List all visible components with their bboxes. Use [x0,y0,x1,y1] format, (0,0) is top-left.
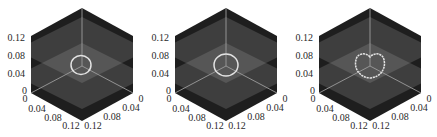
x-tick: 0.08 [332,112,350,123]
plot-panel-3: 0.12 0.08 0.04 0 0 0.04 0.08 0.12 0.12 0… [288,0,434,137]
y-tick: 0 [427,93,432,104]
z-tick: 0.08 [296,50,314,61]
plot-canvas-1: 0.12 0.08 0.04 0 0 0.04 0.08 0.12 0.12 0… [0,0,146,137]
z-tick: 0.12 [152,32,170,43]
z-tick: 0.04 [152,68,170,79]
y-tick: 0.08 [103,111,121,122]
x-tick: 0.12 [206,120,224,131]
z-tick: 0.12 [296,32,314,43]
y-tick: 0.04 [122,102,140,113]
y-tick: 0.08 [247,111,265,122]
z-tick: 0.04 [8,68,26,79]
x-tick: 0.04 [172,103,190,114]
z-tick: 0.08 [8,50,26,61]
x-tick: 0 [311,93,316,104]
plot-panel-2: 0.12 0.08 0.04 0 0 0.04 0.08 0.12 0.12 0… [144,0,290,137]
x-tick: 0 [23,93,28,104]
x-tick: 0.08 [44,112,62,123]
y-tick: 0 [139,93,144,104]
x-tick: 0 [167,93,172,104]
y-tick: 0.04 [410,102,428,113]
plot-canvas-3: 0.12 0.08 0.04 0 0 0.04 0.08 0.12 0.12 0… [288,0,434,137]
plot-panel-1: 0.12 0.08 0.04 0 0 0.04 0.08 0.12 0.12 0… [0,0,146,137]
z-tick: 0.12 [8,32,26,43]
x-tick: 0.12 [350,120,368,131]
z-tick: 0.04 [296,68,314,79]
y-tick: 0.12 [228,120,246,131]
y-tick: 0.08 [391,111,409,122]
x-tick: 0.12 [62,120,80,131]
y-tick: 0.12 [372,120,390,131]
z-tick: 0.08 [152,50,170,61]
x-tick: 0.04 [316,103,334,114]
y-tick: 0 [283,93,288,104]
y-tick: 0.12 [84,120,102,131]
x-tick: 0.04 [28,103,46,114]
x-tick: 0.08 [188,112,206,123]
plot-canvas-2: 0.12 0.08 0.04 0 0 0.04 0.08 0.12 0.12 0… [144,0,290,137]
y-tick: 0.04 [266,102,284,113]
